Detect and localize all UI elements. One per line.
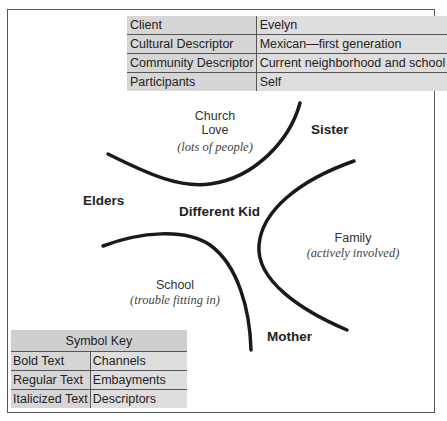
family-label: Family — [298, 231, 408, 245]
school-embayment: School (trouble fitting in) — [120, 278, 230, 308]
channel-sister: Sister — [311, 122, 349, 137]
key-style: Bold Text — [11, 352, 90, 371]
church-embayment: Church Love (lots of people) — [175, 109, 255, 155]
channel-mother: Mother — [267, 329, 312, 344]
family-descriptor: (actively involved) — [298, 246, 408, 261]
family-embayment: Family (actively involved) — [298, 231, 408, 261]
symbol-key-table: Symbol Key Bold Text Channels Regular Te… — [11, 330, 187, 408]
key-meaning: Descriptors — [90, 390, 187, 409]
school-label: School — [120, 278, 230, 292]
table-row: Italicized Text Descriptors — [11, 390, 187, 409]
school-descriptor: (trouble fitting in) — [120, 293, 230, 308]
channel-elders: Elders — [83, 193, 124, 208]
table-row: Bold Text Channels — [11, 352, 187, 371]
love-label: Love — [175, 123, 255, 137]
table-row: Regular Text Embayments — [11, 371, 187, 390]
symbol-key-title: Symbol Key — [11, 330, 187, 352]
church-label: Church — [175, 109, 255, 123]
key-meaning: Embayments — [90, 371, 187, 390]
center-label: Different Kid — [179, 204, 260, 219]
key-style: Italicized Text — [11, 390, 90, 409]
key-meaning: Channels — [90, 352, 187, 371]
symbol-key-header-row: Symbol Key — [11, 330, 187, 352]
church-descriptor: (lots of people) — [175, 140, 255, 155]
key-style: Regular Text — [11, 371, 90, 390]
